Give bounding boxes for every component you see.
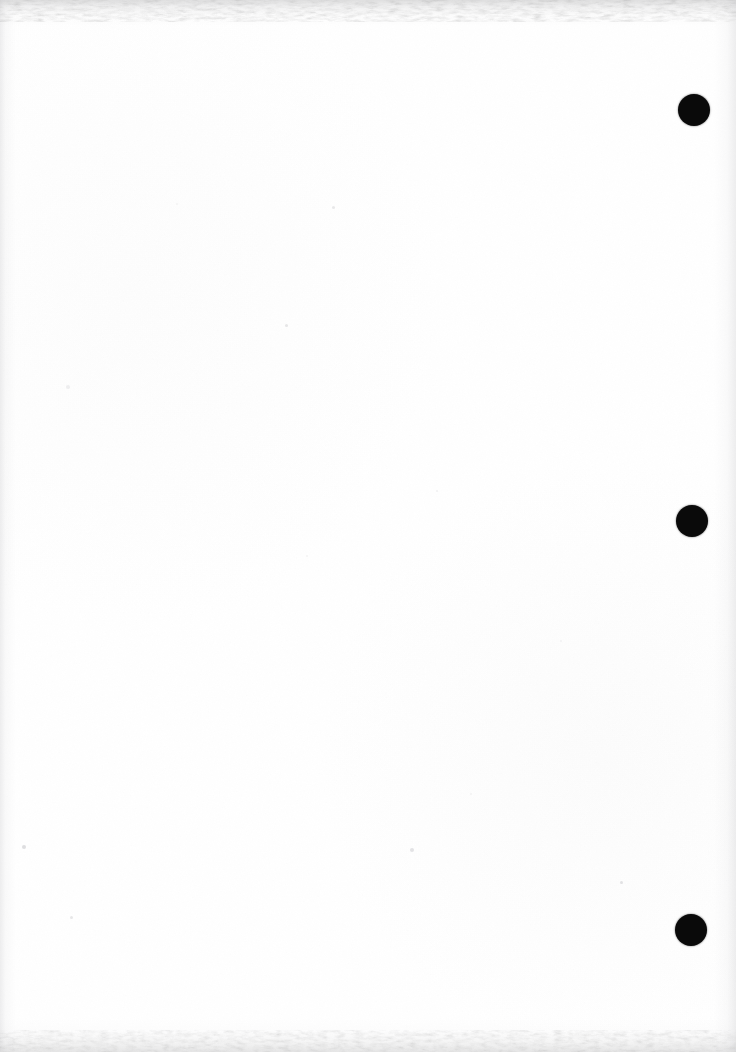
scanned-page xyxy=(0,0,736,1052)
dust-speck xyxy=(22,845,26,849)
scan-edge-fray-top xyxy=(0,0,736,22)
scan-edge-shadow-left xyxy=(0,0,16,1052)
fiducial-dot-top xyxy=(678,94,710,126)
page-body-text xyxy=(56,56,656,996)
fiducial-dot-middle xyxy=(676,505,708,537)
scan-edge-shadow-top xyxy=(0,0,736,26)
fiducial-dot-bottom xyxy=(675,914,707,946)
scan-edge-shadow-right xyxy=(714,0,736,1052)
scan-edge-fray-bottom xyxy=(0,1030,736,1052)
scan-edge-shadow-bottom xyxy=(0,1018,736,1052)
